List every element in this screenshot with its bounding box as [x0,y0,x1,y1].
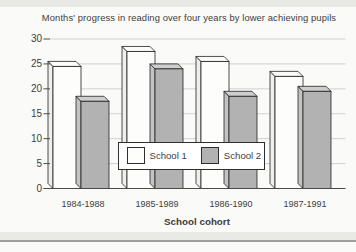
y-tick-label: 0 [14,183,42,194]
bar-school-2-1987-1991 [298,86,331,188]
bar-school-2-1985-1989 [150,64,183,189]
bar-school-2-1986-1990 [224,91,257,188]
legend: School 1 School 2 [118,142,266,170]
school-1-swatch [127,147,145,164]
x-category-label: 1984-1988 [51,199,115,209]
legend-item-school-1: School 1 [127,147,187,164]
scanned-chart-page: Months' progress in reading over four ye… [0,0,356,252]
legend-label-school-2: School 2 [224,150,261,161]
legend-label-school-1: School 1 [150,150,187,161]
x-category-label: 1986-1990 [199,199,263,209]
y-tick-label: 15 [14,108,42,119]
y-tick-label: 20 [14,83,42,94]
x-axis-labels: 1984-19881985-19891986-19901987-1991 [0,199,356,211]
y-tick-label: 5 [14,158,42,169]
x-category-label: 1987-1991 [273,199,337,209]
x-axis-title: School cohort [47,216,347,227]
x-category-label: 1985-1989 [125,199,189,209]
y-tick-label: 10 [14,133,42,144]
y-tick-label: 25 [14,58,42,69]
legend-item-school-2: School 2 [201,147,261,164]
y-axis-labels: 051015202530 [14,0,42,252]
bar-school-2-1984-1988 [76,96,109,188]
y-tick-label: 30 [14,33,42,44]
bar-chart-plot [0,0,356,252]
page-bottom-band [0,232,356,243]
school-2-swatch [201,147,219,164]
